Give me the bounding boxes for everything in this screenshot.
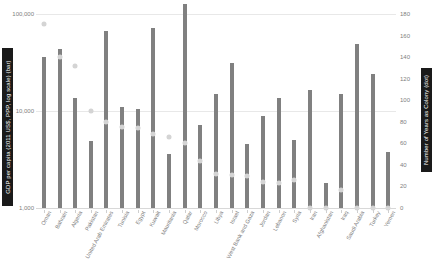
bar: [120, 107, 124, 208]
y-axis-right-tick-label: 0: [400, 205, 403, 211]
bar: [355, 44, 359, 208]
x-axis-label: Mauritania: [160, 210, 178, 236]
bar: [151, 28, 155, 208]
y-axis-right-tick-label: 120: [400, 76, 410, 82]
y-axis-right-tick-label: 40: [400, 162, 407, 168]
x-axis-label: Yemen: [383, 210, 396, 228]
x-axis-label: Afghanistan: [315, 210, 334, 239]
dot-marker: [151, 131, 156, 136]
y-axis-left-tick-label: 1,000: [19, 205, 34, 211]
x-axis-label: Syria: [291, 210, 302, 224]
bar: [308, 90, 312, 208]
dot-marker: [339, 187, 344, 192]
gridline: [36, 14, 396, 15]
y-axis-right-tick-label: 60: [400, 140, 407, 146]
x-axis-label: Kuwait: [149, 210, 162, 228]
bar: [292, 140, 296, 208]
y-axis-right-tick-label: 20: [400, 183, 407, 189]
bar: [230, 63, 234, 208]
x-axis-label: Pakistan: [84, 210, 99, 232]
y-axis-left-tick-label: 10,000: [16, 108, 34, 114]
x-axis-label: Oman: [40, 210, 52, 226]
y-axis-left-ticks: 1,00010,000100,000: [0, 0, 34, 274]
x-axis-label: Lebanon: [271, 210, 287, 232]
y-axis-left-tick-label: 100,000: [12, 11, 34, 17]
dot-marker: [135, 126, 140, 131]
bar: [183, 4, 187, 208]
bar: [324, 183, 328, 208]
dot-marker: [229, 172, 234, 177]
dot-marker: [41, 21, 46, 26]
x-axis-label: Tunisia: [117, 210, 131, 229]
x-axis-label: Egypt: [134, 210, 146, 225]
bar: [73, 98, 77, 208]
dot-marker: [73, 63, 78, 68]
dot-marker: [57, 55, 62, 60]
dot-marker: [104, 119, 109, 124]
chart-container: GDP per capita (2011 US$, PPP, log scale…: [0, 0, 438, 274]
y-axis-right-tick-label: 180: [400, 11, 410, 17]
x-axis-label: Algeria: [70, 210, 83, 228]
bar: [136, 109, 140, 208]
bar: [277, 98, 281, 208]
x-axis-labels: OmanBahrainAlgeriaPakistanUnited Arab Em…: [36, 210, 396, 274]
dot-marker: [214, 171, 219, 176]
dot-marker: [292, 178, 297, 183]
x-axis-label: Libya: [213, 210, 225, 225]
x-axis-label: Jordan: [258, 210, 271, 228]
y-axis-right-tick-label: 140: [400, 54, 410, 60]
y-axis-right-tick-label: 80: [400, 119, 407, 125]
x-axis-label: Israel: [228, 210, 240, 225]
bar: [214, 94, 218, 208]
y-axis-right-ticks: 020406080100120140160180: [400, 0, 438, 274]
dot-marker: [245, 173, 250, 178]
plot-area: [36, 14, 396, 208]
dot-marker: [167, 134, 172, 139]
x-axis-label: Qatar: [181, 210, 193, 225]
x-axis-label: Bahrain: [53, 210, 67, 230]
bar: [198, 125, 202, 208]
bar: [167, 154, 171, 208]
dot-marker: [88, 109, 93, 114]
bar: [261, 116, 265, 208]
bar: [89, 141, 93, 208]
x-axis-label: Turkey: [368, 210, 381, 228]
dot-marker: [261, 180, 266, 185]
bar: [386, 152, 390, 208]
dot-marker: [276, 181, 281, 186]
y-axis-right-tick-label: 100: [400, 97, 410, 103]
dot-marker: [182, 141, 187, 146]
x-axis-label: Morocco: [193, 210, 208, 232]
bar: [371, 74, 375, 208]
dot-marker: [198, 158, 203, 163]
dot-marker: [120, 125, 125, 130]
y-axis-right-tick-label: 160: [400, 33, 410, 39]
bar: [58, 49, 62, 208]
x-axis-line: [36, 208, 396, 209]
bar: [42, 57, 46, 208]
